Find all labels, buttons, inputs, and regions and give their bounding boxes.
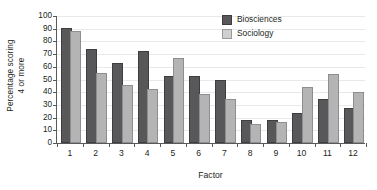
x-axis-tick <box>109 143 110 147</box>
bar-chart-figure: Percentage scoring 4 or more 01020304050… <box>0 0 377 190</box>
bar-sociology-3 <box>122 85 133 143</box>
x-axis-tick <box>134 143 135 147</box>
bar-group <box>86 16 105 143</box>
y-axis-title-line2: 4 or more <box>16 39 27 111</box>
bar-sociology-6 <box>199 94 210 143</box>
bar-group <box>318 16 337 143</box>
x-axis-tick-label: 7 <box>222 149 227 158</box>
x-axis-tick-label: 10 <box>297 149 307 158</box>
x-axis-tick <box>186 143 187 147</box>
x-axis-tick-label: 6 <box>196 149 201 158</box>
bar-sociology-4 <box>147 89 158 143</box>
legend-item-biosciences: Biosciences <box>222 14 282 25</box>
y-axis-tick-label: 40 <box>43 88 52 96</box>
x-axis-tick-label: 8 <box>248 149 253 158</box>
bar-series-container <box>57 16 365 143</box>
y-axis-tick-label: 80 <box>43 37 52 45</box>
x-axis-tick <box>237 143 238 147</box>
x-axis-tick <box>263 143 264 147</box>
x-axis-tick-label: 4 <box>145 149 150 158</box>
legend-item-label: Sociology <box>237 29 273 38</box>
bar-sociology-10 <box>302 87 313 143</box>
y-axis-title-line1: Percentage scoring <box>6 39 15 111</box>
x-axis-tick <box>366 143 367 147</box>
y-axis-tick-label: 70 <box>43 50 52 58</box>
bar-sociology-9 <box>276 122 287 143</box>
x-axis-tick-label: 11 <box>323 149 332 158</box>
y-axis-tick-label: 30 <box>43 101 52 109</box>
x-axis-tick <box>315 143 316 147</box>
x-axis-tick-label: 5 <box>170 149 175 158</box>
legend: BiosciencesSociology <box>222 14 282 39</box>
y-axis-tick-label: 100 <box>38 12 52 20</box>
x-axis-tick <box>340 143 341 147</box>
bar-sociology-5 <box>173 58 184 143</box>
plot-area: 0102030405060708090100 123456789101112 <box>56 16 365 144</box>
y-axis-title: Percentage scoring 4 or more <box>0 0 32 150</box>
bar-sociology-7 <box>225 99 236 143</box>
y-axis-tick-label: 20 <box>43 113 52 121</box>
x-axis-tick-label: 2 <box>93 149 98 158</box>
bar-sociology-11 <box>328 74 339 143</box>
x-axis-ticks: 123456789101112 <box>57 143 365 165</box>
y-axis-tick-label: 0 <box>47 139 52 147</box>
x-axis-tick-label: 1 <box>67 149 72 158</box>
y-axis-tick-label: 50 <box>43 75 52 83</box>
x-axis-tick <box>160 143 161 147</box>
bar-group <box>61 16 80 143</box>
x-axis-tick <box>57 143 58 147</box>
legend-item-sociology: Sociology <box>222 28 282 39</box>
bar-group <box>112 16 131 143</box>
bar-sociology-12 <box>353 92 364 143</box>
x-axis-title: Factor <box>56 170 365 180</box>
x-axis-tick <box>289 143 290 147</box>
x-axis-tick-label: 12 <box>348 149 358 158</box>
bar-sociology-8 <box>250 124 261 143</box>
x-axis-tick-label: 3 <box>119 149 124 158</box>
x-axis-tick <box>212 143 213 147</box>
y-axis-tick-label: 10 <box>43 126 52 134</box>
legend-swatch-icon <box>222 29 232 39</box>
legend-swatch-icon <box>222 15 232 25</box>
bar-group <box>344 16 363 143</box>
bar-group <box>189 16 208 143</box>
legend-item-label: Biosciences <box>237 15 282 24</box>
y-axis-tick-label: 60 <box>43 63 52 71</box>
bar-sociology-2 <box>96 73 107 143</box>
y-axis-tick-label: 90 <box>43 25 52 33</box>
bar-group <box>138 16 157 143</box>
bar-group <box>292 16 311 143</box>
x-axis-tick-label: 9 <box>273 149 278 158</box>
bar-group <box>164 16 183 143</box>
x-axis-tick <box>83 143 84 147</box>
bar-sociology-1 <box>70 31 81 143</box>
